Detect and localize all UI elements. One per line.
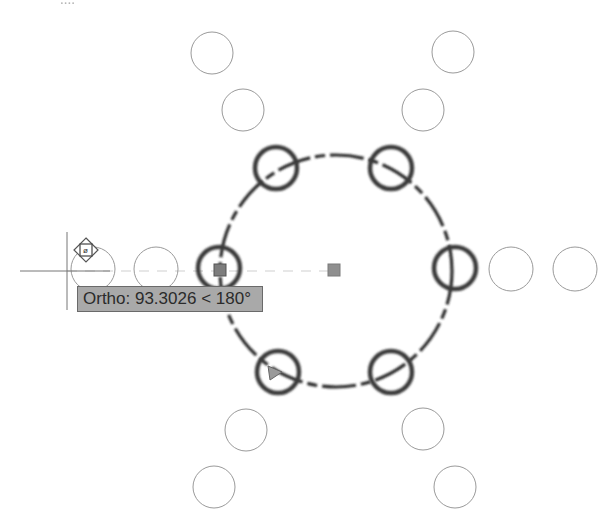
preview-circle [553,247,597,291]
move-grip-icon: ø [74,238,98,262]
selected-circle[interactable] [434,247,476,289]
preview-circle [434,466,476,508]
ortho-tooltip: Ortho: 93.3026 < 180° [77,286,263,312]
svg-text:ø: ø [83,246,88,255]
selected-circle[interactable] [255,147,297,189]
preview-circle [402,408,444,450]
preview-circle [225,409,267,451]
center-grip[interactable] [328,264,340,276]
preview-circle [432,31,474,73]
preview-circle [193,466,235,508]
preview-circle [489,247,533,291]
preview-circle [222,89,264,131]
base-grip[interactable] [214,264,226,276]
preview-circle [402,89,444,131]
preview-circle [134,247,178,291]
preview-circle [191,32,233,74]
drawing-canvas[interactable]: ø [0,0,611,530]
